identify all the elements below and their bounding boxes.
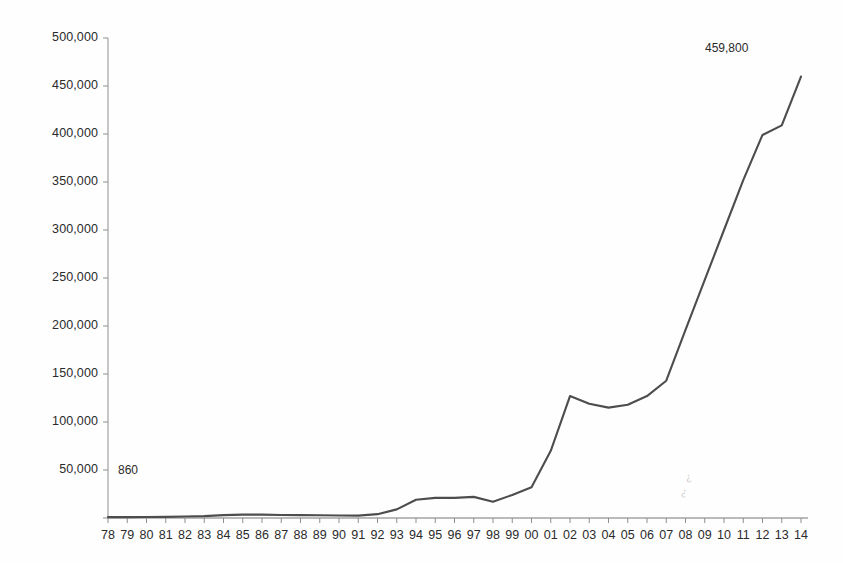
y-axis-tick-label: 100,000 — [10, 414, 98, 428]
x-axis-ticks — [108, 518, 801, 523]
y-axis-tick-label: 300,000 — [10, 222, 98, 236]
y-axis-tick-label: 500,000 — [10, 30, 98, 44]
y-axis-tick-label: 250,000 — [10, 270, 98, 284]
y-axis-tick-label: 150,000 — [10, 366, 98, 380]
y-axis-tick-label: 450,000 — [10, 78, 98, 92]
y-axis-tick-label: 400,000 — [10, 126, 98, 140]
y-axis-tick-label: 200,000 — [10, 318, 98, 332]
y-axis-tick-label: 350,000 — [10, 174, 98, 188]
data-label-first-point: 860 — [118, 463, 138, 477]
chart-plot-area — [0, 0, 843, 563]
line-chart: 500,000450,000400,000350,000300,000250,0… — [0, 0, 843, 563]
y-axis-ticks — [103, 38, 108, 518]
data-label-last-point: 459,800 — [705, 41, 748, 55]
x-axis-tick-label: 14 — [787, 528, 815, 542]
y-axis-tick-label: 50,000 — [10, 462, 98, 476]
data-series-line — [108, 77, 801, 518]
